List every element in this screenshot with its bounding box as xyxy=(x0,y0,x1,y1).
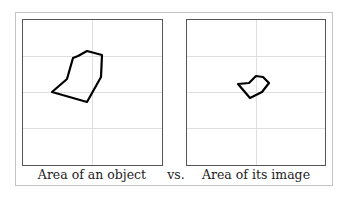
left-caption: Area of an object xyxy=(38,167,146,182)
right-caption: Area of its image xyxy=(202,167,310,182)
right-grid xyxy=(186,19,325,165)
vs-separator: vs. xyxy=(167,167,184,182)
left-panel xyxy=(22,19,163,166)
right-panel xyxy=(186,19,326,166)
object-shape xyxy=(52,51,102,102)
image-shape xyxy=(238,76,269,98)
